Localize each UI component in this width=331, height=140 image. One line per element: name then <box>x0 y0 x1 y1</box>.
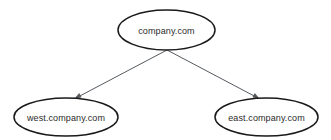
node-label-root: company.com <box>138 26 194 36</box>
edge-root-to-west <box>74 50 167 99</box>
node-label-west: west.company.com <box>26 113 105 123</box>
node-east[interactable]: east.company.com <box>215 98 318 136</box>
domain-hierarchy-diagram: company.com west.company.com east.compan… <box>0 0 331 140</box>
node-root[interactable]: company.com <box>118 10 215 50</box>
edge-root-to-east <box>167 50 260 99</box>
node-label-east: east.company.com <box>228 113 304 123</box>
edge-line-root-to-west <box>76 50 167 98</box>
diagram-canvas: company.com west.company.com east.compan… <box>0 0 331 140</box>
node-west[interactable]: west.company.com <box>14 98 118 136</box>
edge-line-root-to-east <box>167 50 258 98</box>
